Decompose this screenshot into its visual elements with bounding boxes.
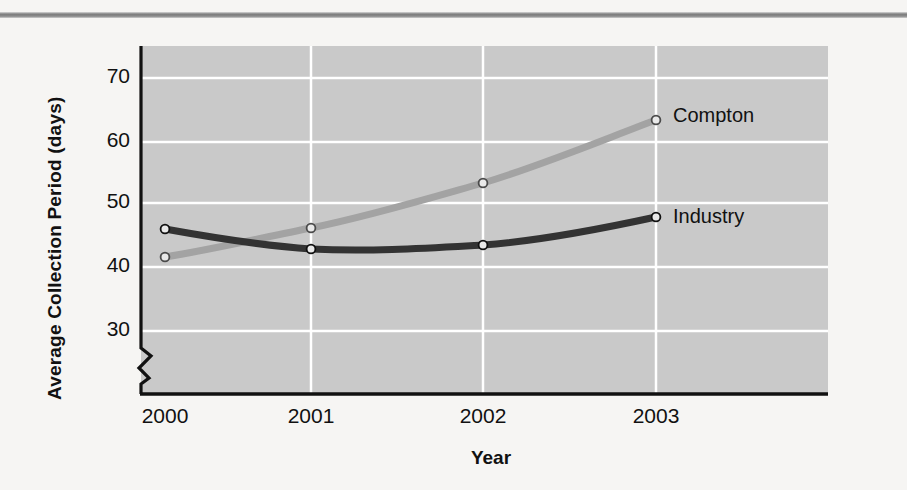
x-tick-2002: 2002 [423,404,543,428]
compton-point-2002 [479,179,488,188]
y-tick-40: 40 [72,253,130,277]
x-axis-title: Year [0,447,907,469]
chart-figure: 70 60 50 40 30 2000 2001 2002 2003 Avera… [0,0,907,490]
series-label-industry: Industry [673,205,744,228]
x-tick-2001: 2001 [251,404,371,428]
x-tick-2000: 2000 [105,404,225,428]
compton-point-2000 [161,253,170,262]
series-label-compton: Compton [673,104,754,127]
y-tick-70: 70 [72,64,130,88]
compton-point-2003 [652,116,661,125]
industry-point-2000 [161,225,170,234]
y-tick-30: 30 [72,317,130,341]
x-tick-2003: 2003 [596,404,716,428]
y-tick-50: 50 [72,189,130,213]
industry-point-2003 [652,213,661,222]
y-tick-60: 60 [72,128,130,152]
compton-point-2001 [307,224,316,233]
industry-point-2001 [307,245,316,254]
y-axis-title: Average Collection Period (days) [44,40,66,400]
industry-point-2002 [479,241,488,250]
